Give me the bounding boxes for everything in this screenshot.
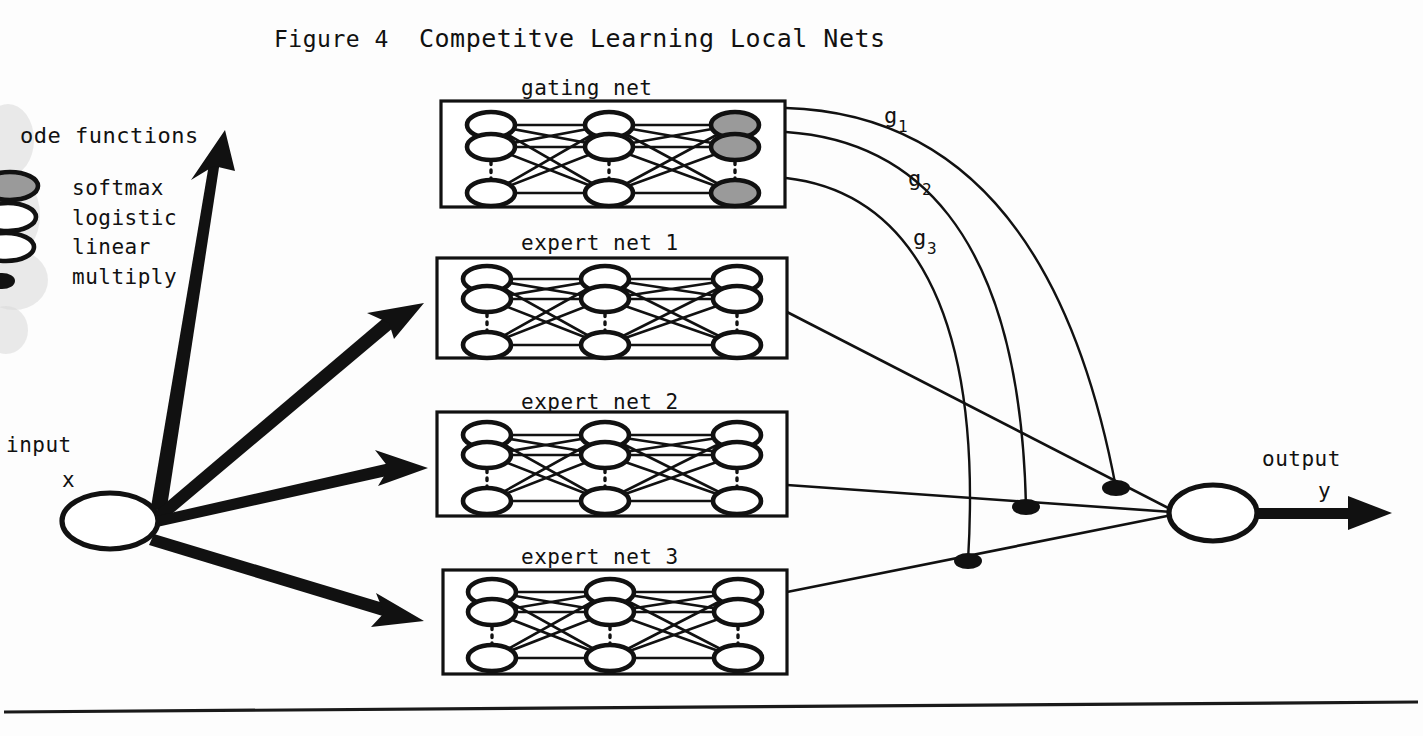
multiply-dot-g3 [954,553,982,569]
output-ellipse [1169,485,1257,541]
input-label-name: input [6,433,72,457]
gating-label-g2-name: g [908,166,921,191]
legend-label-logistic: logistic [72,206,177,230]
network-label-expert3: expert net 3 [521,545,679,569]
page-title: Competitve Learning Local Nets [419,24,886,53]
figure-canvas: Figure 4 Competitve Learning Local Nets … [0,0,1423,736]
expert-output-lines [787,312,1172,592]
expert3-output-line [787,515,1172,592]
output-node: output y [1169,447,1392,541]
gating-label-g3-name: g [913,225,926,250]
network-label-expert1: expert net 1 [521,231,679,255]
gating-label-g3-subscript: 3 [927,239,937,258]
gating-curve-g2 [786,132,1026,507]
network-expert3: expert net 3 [443,545,787,674]
input-fanout-arrows [149,130,428,627]
multiply-dot-g1 [1102,480,1130,496]
diagram-svg: Figure 4 Competitve Learning Local Nets … [0,0,1423,736]
legend-label-linear: linear [72,235,151,259]
network-expert1: expert net 1 [437,231,787,358]
network-label-gating: gating net [521,76,652,100]
gating-label-g1-subscript: 1 [898,117,908,136]
legend-swatch-linear [0,233,34,261]
multiply-dot-g2 [1012,499,1040,515]
gating-label-g2-subscript: 2 [922,180,932,199]
gating-curve-g1 [786,108,1116,488]
legend-heading: ode functions [20,123,199,148]
arrow-to-expert3 [149,534,390,617]
input-node: input x [6,433,158,549]
output-label-name: output [1262,447,1341,471]
network-expert2: expert net 2 [437,390,787,516]
legend-label-softmax: softmax [72,176,164,200]
input-label-variable: x [62,468,75,492]
gating-curve-g3 [786,178,970,561]
output-label-variable: y [1318,479,1331,503]
gating-label-g1-name: g [884,103,897,128]
figure-number: Figure 4 [274,26,389,52]
legend-swatch-softmax [0,172,38,200]
page-rule [4,702,1418,712]
legend-label-multiply: multiply [72,265,177,289]
legend-swatch-logistic [0,203,36,231]
gating-curves [786,108,1116,561]
network-gating: gating net [441,76,785,207]
output-arrow-head [1348,496,1392,530]
multiply-nodes [954,480,1130,569]
network-label-expert2: expert net 2 [521,390,679,414]
input-ellipse [62,493,158,549]
output-arrow-shaft [1256,508,1356,519]
